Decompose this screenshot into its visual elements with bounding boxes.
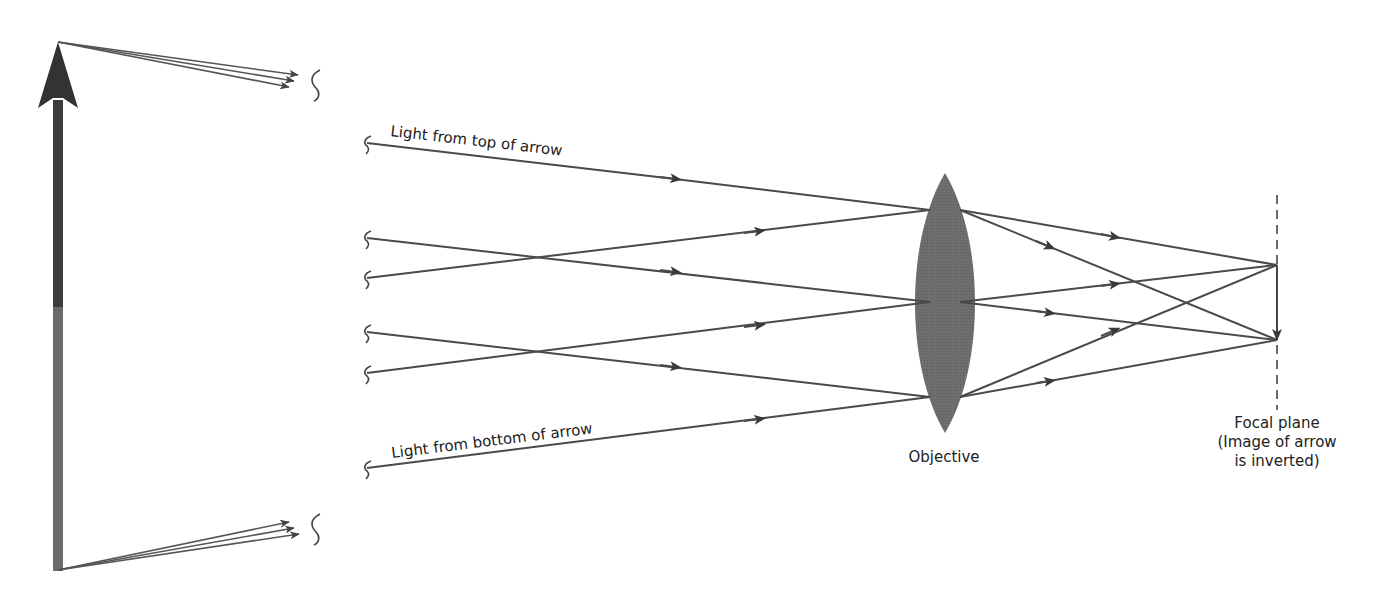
bottom-fan-rays xyxy=(58,514,320,570)
refracted-ray xyxy=(960,210,1277,265)
fan-ray xyxy=(58,522,289,570)
ray-bottom-2 xyxy=(367,302,930,373)
ray-top-1-arrowhead xyxy=(660,177,676,179)
label-focal-plane: Focal plane xyxy=(1234,414,1319,432)
ray-bottom-1 xyxy=(367,210,930,278)
top-fan-rays xyxy=(58,42,320,101)
break-squiggle-icon xyxy=(365,325,371,343)
refracted-ray-arrowhead xyxy=(1036,381,1050,383)
rays-from-top-of-arrow xyxy=(367,143,930,397)
refracted-ray xyxy=(960,265,1277,302)
fan-ray xyxy=(58,42,294,81)
refracted-ray xyxy=(960,340,1277,397)
fan-ray xyxy=(58,42,289,87)
ray-bottom-3 xyxy=(367,397,930,468)
label-focal-plane-line3: is inverted) xyxy=(1234,452,1319,470)
object-arrow-head xyxy=(38,42,78,108)
refracted-rays xyxy=(960,210,1277,397)
ray-top-3 xyxy=(367,332,930,397)
fan-ray xyxy=(58,528,294,570)
object-arrow-shaft-lower xyxy=(53,307,63,571)
object-arrow xyxy=(38,42,78,571)
ray-top-2 xyxy=(367,238,930,302)
label-focal-plane-line2: (Image of arrow xyxy=(1217,433,1336,451)
refracted-ray-arrowhead xyxy=(1036,241,1050,247)
label-objective: Objective xyxy=(908,448,979,466)
break-squiggle-icon xyxy=(365,136,371,154)
optics-diagram: Light from top of arrow Light from botto… xyxy=(0,0,1390,591)
rays-from-bottom-of-arrow xyxy=(367,210,930,468)
refracted-ray xyxy=(960,265,1277,397)
break-squiggle-icon xyxy=(365,461,371,479)
break-squiggle-icon xyxy=(365,366,371,384)
fan-ray xyxy=(58,42,298,75)
refracted-ray-arrowhead xyxy=(1036,311,1050,313)
break-squiggle-icon xyxy=(365,271,371,289)
label-light-from-top: Light from top of arrow xyxy=(390,122,564,159)
ray-top-1 xyxy=(367,143,930,210)
object-arrow-shaft-upper xyxy=(53,100,63,308)
break-squiggle-icon xyxy=(312,70,320,101)
label-light-from-bottom: Light from bottom of arrow xyxy=(390,419,593,462)
break-squiggle-icon xyxy=(312,514,320,545)
fan-ray xyxy=(58,534,299,570)
ray-start-squiggles xyxy=(365,136,371,479)
break-squiggle-icon xyxy=(365,231,371,249)
